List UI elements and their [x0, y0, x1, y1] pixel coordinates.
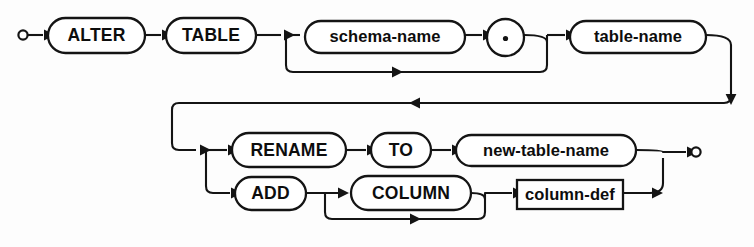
arrow-into-colsplit-icon [338, 188, 349, 199]
node-schema-name[interactable]: schema-name [305, 21, 465, 53]
syntax-diagram-canvas: ALTERTABLEschema-nametable-nameRENAMETOn… [0, 0, 754, 247]
rail-path-column-to-coldef [471, 193, 512, 199]
arrow-schema-bypass-icon [392, 67, 403, 78]
node-table[interactable]: TABLE [166, 18, 256, 53]
node-column-def[interactable]: column-def [517, 180, 623, 209]
rail-nodes-group: ALTERTABLEschema-nametable-nameRENAMETOn… [48, 18, 706, 210]
node-to[interactable]: TO [371, 133, 431, 167]
node-label-table: TABLE [182, 25, 240, 45]
rail-path-tablename-out [706, 35, 731, 96]
node-label-to: TO [389, 140, 413, 160]
node-rename[interactable]: RENAME [232, 133, 346, 167]
node-dot[interactable] [487, 19, 524, 56]
node-table-name[interactable]: table-name [570, 21, 706, 53]
node-add[interactable]: ADD [235, 177, 306, 210]
node-new-table-name[interactable]: new-table-name [456, 135, 636, 166]
node-alter[interactable]: ALTER [48, 18, 145, 53]
arrow-into-split-icon [284, 30, 295, 41]
node-label-rename: RENAME [250, 140, 327, 160]
node-label-column: COLUMN [372, 183, 450, 203]
rail-path-branch-to-add [206, 150, 230, 193]
node-column[interactable]: COLUMN [351, 176, 471, 210]
arrow-return-icon [409, 98, 420, 109]
node-label-column-def: column-def [525, 185, 615, 203]
rail-path-dot-to-merge [524, 35, 547, 42]
rail-path-newname-to-end [636, 150, 686, 152]
railroad-diagram: ALTERTABLEschema-nametable-nameRENAMETOn… [0, 0, 754, 247]
end-terminal [691, 147, 700, 156]
arrow-column-bypass-icon [410, 214, 421, 225]
node-label-schema-name: schema-name [329, 27, 440, 45]
node-label-table-name: table-name [594, 27, 682, 45]
node-label-new-table-name: new-table-name [483, 141, 609, 159]
start-terminal [18, 30, 27, 39]
node-label-alter: ALTER [67, 25, 125, 45]
node-label-add: ADD [251, 183, 290, 203]
node-label-dot [503, 36, 508, 41]
